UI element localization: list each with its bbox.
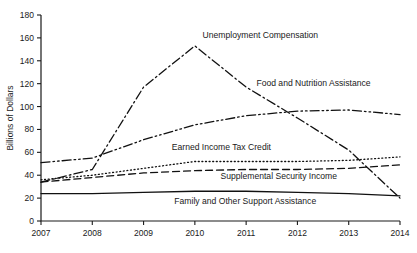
series-label: Earned Income Tax Credit — [172, 142, 272, 152]
y-tick-label: 180 — [20, 10, 34, 20]
axis-lines — [41, 15, 400, 221]
series-label: Unemployment Compensation — [203, 30, 319, 40]
y-tick-label: 60 — [25, 147, 35, 157]
chart-canvas: 020406080100120140160180Billions of Doll… — [0, 0, 417, 253]
series-label: Family and Other Support Assistance — [174, 196, 316, 206]
chart-axes — [41, 15, 400, 221]
x-tick-label: 2014 — [391, 228, 410, 238]
y-axis-ticks: 020406080100120140160180 — [20, 10, 41, 226]
series-3: Supplemental Security Income — [41, 165, 400, 182]
x-tick-label: 2013 — [339, 228, 358, 238]
y-tick-label: 100 — [20, 102, 34, 112]
y-tick-label: 120 — [20, 79, 34, 89]
y-tick-label: 0 — [29, 216, 34, 226]
series-4: Family and Other Support Assistance — [41, 191, 400, 206]
y-tick-label: 20 — [25, 193, 35, 203]
y-tick-label: 160 — [20, 33, 34, 43]
y-tick-label: 140 — [20, 56, 34, 66]
line-chart: 020406080100120140160180Billions of Doll… — [0, 0, 417, 253]
x-tick-label: 2012 — [288, 228, 307, 238]
x-tick-label: 2010 — [185, 228, 204, 238]
x-tick-label: 2007 — [32, 228, 51, 238]
x-tick-label: 2008 — [83, 228, 102, 238]
x-axis-ticks: 20072008200920102011201220132014 — [32, 221, 410, 238]
x-tick-label: 2009 — [134, 228, 153, 238]
y-tick-label: 80 — [25, 124, 35, 134]
y-axis-title: Billions of Dollars — [5, 85, 15, 150]
y-tick-label: 40 — [25, 170, 35, 180]
series-label: Supplemental Security Income — [221, 171, 338, 181]
series-line — [41, 110, 400, 163]
x-tick-label: 2011 — [237, 228, 256, 238]
series-label: Food and Nutrition Assistance — [256, 78, 370, 88]
